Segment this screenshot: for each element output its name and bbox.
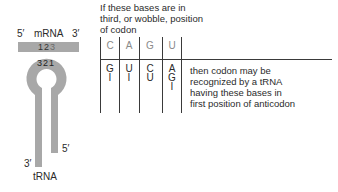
table-cell: I bbox=[163, 82, 181, 91]
table-header-g: G bbox=[141, 40, 159, 51]
table-divider bbox=[181, 37, 182, 113]
wobble-caption: If these bases are in third, or wobble, … bbox=[100, 2, 203, 35]
table-column-g: C U bbox=[141, 64, 159, 82]
table-cell: U bbox=[141, 73, 159, 82]
table-header-u: U bbox=[163, 40, 181, 51]
recognition-caption-line: first position of anticodon bbox=[190, 98, 295, 109]
table-header-a: A bbox=[120, 40, 138, 51]
trna-label: tRNA bbox=[33, 172, 57, 182]
recognition-caption-line: then codon may be bbox=[190, 65, 295, 76]
recognition-caption-line: recognized by a tRNA bbox=[190, 76, 295, 87]
recognition-caption: then codon may be recognized by a tRNA h… bbox=[190, 65, 295, 109]
table-header-c: C bbox=[101, 40, 119, 51]
table-column-c: G I bbox=[101, 64, 119, 82]
trna-anticodon-positions: 321 bbox=[37, 58, 55, 68]
trna-shape bbox=[0, 0, 100, 192]
table-column-a: U I bbox=[120, 64, 138, 82]
wobble-caption-line: third, or wobble, position bbox=[100, 13, 203, 24]
trna-five-prime-label: 5′ bbox=[62, 144, 69, 154]
table-cell: I bbox=[101, 73, 119, 82]
table-cell: I bbox=[120, 73, 138, 82]
recognition-caption-line: having these bases in bbox=[190, 87, 295, 98]
table-header-rule bbox=[100, 59, 332, 60]
wobble-caption-line: of codon bbox=[100, 24, 203, 35]
table-divider bbox=[139, 37, 140, 113]
trna-three-prime-label: 3′ bbox=[24, 159, 31, 169]
trna-cloverleaf-icon bbox=[27, 59, 67, 167]
anticodon-position-1: 1 bbox=[49, 58, 55, 68]
table-column-u: A G I bbox=[163, 64, 181, 91]
wobble-caption-line: If these bases are in bbox=[100, 2, 203, 13]
